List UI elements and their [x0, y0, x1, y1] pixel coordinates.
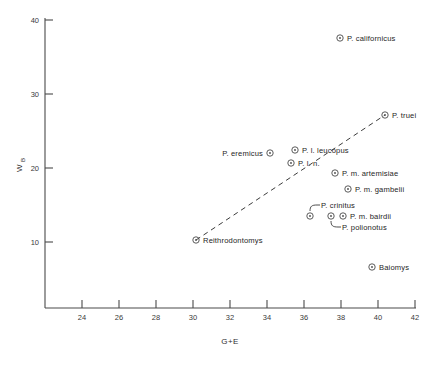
- data-point-p-l-leucopus: P. l. leucopus: [292, 146, 349, 155]
- y-axis-ticks: 40 30 20 10: [31, 16, 53, 247]
- x-tick-label-24: 24: [78, 313, 86, 322]
- point-label-p-californicus: P. californicus: [347, 34, 396, 43]
- point-label-p-crinitus: P. crinitus: [321, 201, 355, 210]
- axes-group: [45, 18, 416, 308]
- x-tick-label-42: 42: [411, 313, 419, 322]
- data-point-reithrodontomys: Reithrodontomys: [193, 236, 263, 245]
- marker-dot-icon: [330, 215, 332, 217]
- marker-dot-icon: [309, 215, 311, 217]
- x-axis-title: G+E: [221, 337, 238, 346]
- y-tick-label-20: 20: [31, 164, 39, 173]
- point-label-reithrodontomys: Reithrodontomys: [203, 236, 263, 245]
- marker-dot-icon: [342, 215, 344, 217]
- x-tick-label-30: 30: [189, 313, 197, 322]
- data-point-p-californicus: P. californicus: [337, 34, 396, 43]
- point-label-p-l-n: P. l. n.: [298, 159, 320, 168]
- leader-line-p-crinitus: [310, 205, 320, 211]
- point-label-p-polionotus: P. polionotus: [342, 223, 387, 232]
- marker-dot-icon: [371, 266, 373, 268]
- data-point-p-l-n: P. l. n.: [288, 159, 320, 168]
- data-point-p-eremicus: P. eremicus: [222, 149, 273, 158]
- point-label-p-l-leucopus: P. l. leucopus: [302, 146, 349, 155]
- y-tick-label-10: 10: [31, 238, 39, 247]
- y-tick-label-30: 30: [31, 90, 39, 99]
- y-axis-title-group: W B: [15, 158, 26, 172]
- x-tick-label-32: 32: [226, 313, 234, 322]
- point-label-p-m-gambelii: P. m. gambelii: [355, 185, 404, 194]
- x-axis-ticks: 24 26 28 30 32 34 36 38 40 42: [78, 300, 419, 322]
- data-point-p-m-artemisiae: P. m. artemisiae: [332, 169, 398, 178]
- point-label-p-m-bairdii: P. m. bairdii: [350, 212, 391, 221]
- marker-dot-icon: [269, 152, 271, 154]
- marker-dot-icon: [290, 162, 292, 164]
- point-label-p-truei: P. truei: [392, 111, 416, 120]
- point-label-p-eremicus: P. eremicus: [222, 149, 263, 158]
- scatter-plot-figure: 40 30 20 10 24 26 28 30 32 34 36 38 40 4…: [0, 0, 432, 369]
- x-tick-label-34: 34: [263, 313, 271, 322]
- marker-dot-icon: [339, 37, 341, 39]
- marker-dot-icon: [195, 239, 197, 241]
- x-tick-label-28: 28: [152, 313, 160, 322]
- point-label-p-m-artemisiae: P. m. artemisiae: [342, 169, 398, 178]
- data-point-p-m-bairdii: P. m. bairdii: [340, 212, 391, 221]
- data-point-p-truei: P. truei: [382, 111, 417, 120]
- leader-line-p-polionotus: [331, 221, 341, 227]
- x-tick-label-26: 26: [115, 313, 123, 322]
- y-axis-title: W: [15, 164, 24, 172]
- point-label-baiomys: Baiomys: [379, 263, 409, 272]
- x-tick-label-40: 40: [374, 313, 382, 322]
- data-point-p-m-gambelii: P. m. gambelii: [345, 185, 405, 194]
- marker-dot-icon: [347, 188, 349, 190]
- marker-dot-icon: [384, 114, 386, 116]
- marker-dot-icon: [294, 149, 296, 151]
- y-tick-label-40: 40: [31, 16, 39, 25]
- y-axis-title-subscript: B: [20, 158, 26, 162]
- x-tick-label-36: 36: [300, 313, 308, 322]
- x-tick-label-38: 38: [337, 313, 345, 322]
- data-point-baiomys: Baiomys: [369, 263, 409, 272]
- marker-dot-icon: [334, 172, 336, 174]
